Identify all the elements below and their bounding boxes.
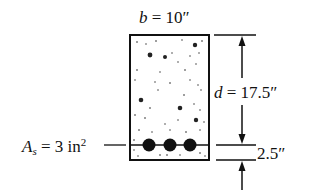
depth-value: 17.5″ [241, 83, 278, 102]
depth-symbol: d [214, 83, 223, 102]
depth-label: d = 17.5″ [214, 83, 277, 102]
width-symbol: b [139, 8, 148, 27]
arrow-up-icon [239, 36, 246, 46]
rebar-bars [143, 139, 197, 152]
steel-symbol: A [22, 137, 32, 156]
arrow-down-icon [239, 134, 246, 144]
arrow-up-icon [239, 161, 246, 171]
steel-superscript: 2 [81, 136, 87, 148]
width-eq: = [148, 8, 166, 27]
steel-eq: = 3 in [37, 137, 81, 156]
width-value: 10″ [166, 8, 190, 27]
cover-value: 2.5″ [257, 144, 285, 163]
steel-area-label: As = 3 in2 [22, 137, 86, 157]
cover-label: 2.5″ [257, 145, 285, 162]
depth-eq: = [223, 83, 241, 102]
dimension-lines [214, 35, 256, 190]
width-label: b = 10″ [139, 9, 190, 26]
